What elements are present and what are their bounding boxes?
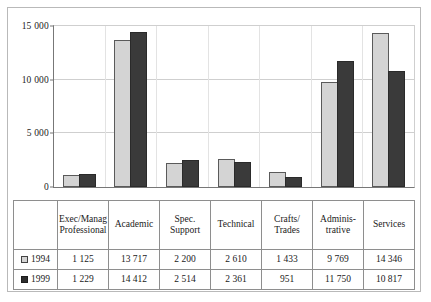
bar-1994-1[interactable] xyxy=(114,40,131,187)
bar-group xyxy=(260,26,312,187)
bar-1999-5[interactable] xyxy=(337,61,354,187)
category-header-cell: Exec/ManagProfessional xyxy=(58,201,109,250)
data-value-cell: 2 361 xyxy=(211,270,262,290)
data-value-cell: 1 125 xyxy=(58,250,109,270)
plot-wrapper: 05 00010 00015 000 xyxy=(8,8,420,198)
data-value-cell: 11 750 xyxy=(313,270,364,290)
bar-group xyxy=(209,26,261,187)
category-header-cell: Adminis-trative xyxy=(313,201,364,250)
table-row-1994: 1994 1 12513 7172 2002 6101 4339 76914 3… xyxy=(14,250,415,270)
bar-1994-6[interactable] xyxy=(372,33,389,187)
category-header-line: Academic xyxy=(110,219,158,230)
category-header-line: Trades xyxy=(263,225,311,236)
bar-group xyxy=(157,26,209,187)
table-row-category-headers: Exec/ManagProfessionalAcademicSpec.Suppo… xyxy=(14,201,415,250)
category-header-line: Exec/Manag xyxy=(59,214,107,225)
bar-1999-6[interactable] xyxy=(388,71,405,187)
bar-group xyxy=(54,26,106,187)
plot-area: 05 00010 00015 000 xyxy=(53,25,415,188)
legend-label-1999: 1999 xyxy=(31,274,50,284)
category-header-cell: Spec.Support xyxy=(160,201,211,250)
bar-1999-3[interactable] xyxy=(234,162,251,187)
y-axis-tick-label: 15 000 xyxy=(22,21,49,31)
data-value-cell: 2 200 xyxy=(160,250,211,270)
bar-group xyxy=(106,26,158,187)
category-header-line: Spec. xyxy=(161,214,209,225)
legend-swatch-dark-icon xyxy=(21,276,28,283)
data-value-cell: 1 229 xyxy=(58,270,109,290)
data-table-wrapper: Exec/ManagProfessionalAcademicSpec.Suppo… xyxy=(13,200,415,290)
table-row-1999: 1999 1 22914 4122 5142 36195111 75010 81… xyxy=(14,270,415,290)
bar-groups xyxy=(54,26,414,187)
legend-item-1994[interactable]: 1994 xyxy=(14,250,58,270)
data-value-cell: 1 433 xyxy=(262,250,313,270)
category-header-line: trative xyxy=(314,225,362,236)
category-header-line: Crafts/ xyxy=(263,214,311,225)
bar-group xyxy=(312,26,364,187)
data-value-cell: 13 717 xyxy=(109,250,160,270)
table-corner-cell xyxy=(14,201,58,250)
legend-swatch-light-icon xyxy=(21,256,28,263)
chart-figure: 05 00010 00015 000 Exec/ManagProfessiona… xyxy=(7,7,421,292)
bar-1999-2[interactable] xyxy=(182,160,199,187)
bar-1999-1[interactable] xyxy=(130,32,147,187)
bar-1994-2[interactable] xyxy=(166,163,183,187)
bar-1994-3[interactable] xyxy=(218,159,235,187)
y-axis-tick-label: 0 xyxy=(44,182,49,192)
bar-1999-0[interactable] xyxy=(79,174,96,187)
data-value-cell: 2 610 xyxy=(211,250,262,270)
bar-1994-5[interactable] xyxy=(321,82,338,187)
data-value-cell: 951 xyxy=(262,270,313,290)
data-value-cell: 14 346 xyxy=(364,250,415,270)
category-header-cell: Crafts/Trades xyxy=(262,201,313,250)
data-value-cell: 14 412 xyxy=(109,270,160,290)
bar-1994-4[interactable] xyxy=(269,172,286,187)
category-header-line: Services xyxy=(365,219,413,230)
data-value-cell: 2 514 xyxy=(160,270,211,290)
category-header-line: Support xyxy=(161,225,209,236)
legend-item-1999[interactable]: 1999 xyxy=(14,270,58,290)
data-value-cell: 10 817 xyxy=(364,270,415,290)
category-header-cell: Academic xyxy=(109,201,160,250)
bar-group xyxy=(363,26,414,187)
bar-1999-4[interactable] xyxy=(285,177,302,187)
category-header-line: Technical xyxy=(212,219,260,230)
legend-label-1994: 1994 xyxy=(31,254,50,264)
category-header-line: Adminis- xyxy=(314,214,362,225)
y-axis-tick-label: 5 000 xyxy=(27,128,49,138)
category-header-cell: Technical xyxy=(211,201,262,250)
bar-1994-0[interactable] xyxy=(63,175,80,187)
data-value-cell: 9 769 xyxy=(313,250,364,270)
category-header-cell: Services xyxy=(364,201,415,250)
category-header-line: Professional xyxy=(59,225,107,236)
y-axis-tick-label: 10 000 xyxy=(22,75,49,85)
data-table: Exec/ManagProfessionalAcademicSpec.Suppo… xyxy=(13,200,415,290)
